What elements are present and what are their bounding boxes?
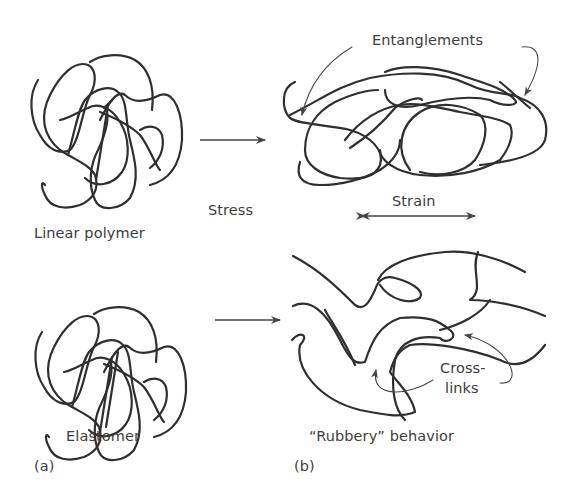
panel-b-label: (b) <box>294 458 315 474</box>
strain-label: Strain <box>392 193 436 209</box>
polymer-diagram <box>0 0 574 498</box>
stretched-chains <box>284 67 546 185</box>
elastomer-label: Elastomer <box>66 428 140 444</box>
entanglements-label: Entanglements <box>372 32 483 48</box>
cross-links-label-line1: Cross- <box>440 360 486 376</box>
stress-label: Stress <box>208 202 253 218</box>
linear-polymer-label: Linear polymer <box>34 225 145 241</box>
rubbery-behavior-label: “Rubbery” behavior <box>309 428 454 444</box>
crosslinked-network <box>292 252 545 420</box>
cross-links-label-line2: links <box>445 380 479 396</box>
linear-polymer-coil <box>31 55 182 208</box>
entanglement-pointer-right <box>522 47 538 95</box>
panel-a-label: (a) <box>34 458 55 474</box>
